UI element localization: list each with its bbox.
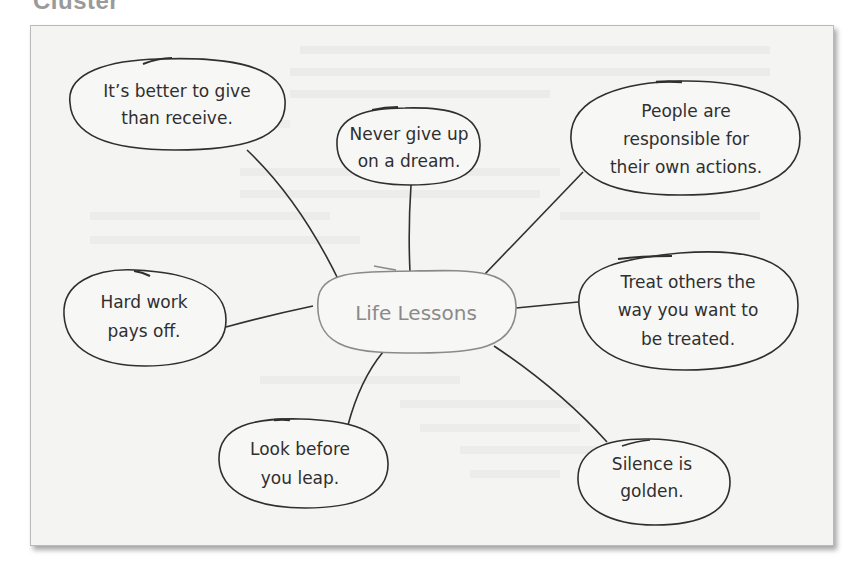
node-silence-line-1: Silence is [612,454,692,474]
node-treat-line-2: way you want to [618,300,759,320]
node-responsible-line-3: their own actions. [610,157,762,177]
connector-responsible [484,172,583,275]
node-hardwork-line-2: pays off. [107,321,180,341]
node-give[interactable]: It’s better to give than receive. [70,58,285,150]
node-give-line-1: It’s better to give [103,81,250,101]
node-responsible[interactable]: People are responsible for their own act… [571,81,800,195]
center-node[interactable]: Life Lessons [318,266,516,353]
node-hardwork-line-1: Hard work [100,292,187,312]
connector-dream [409,185,411,272]
center-label: Life Lessons [355,301,477,325]
node-dream-line-1: Never give up [349,124,468,144]
node-look-line-2: you leap. [261,468,339,488]
node-treat-line-1: Treat others the [620,272,756,292]
node-silence-line-2: golden. [620,481,683,501]
connector-look [348,352,383,425]
node-look-line-1: Look before [250,439,350,459]
connector-hardwork [226,306,313,327]
node-responsible-line-2: responsible for [623,129,749,149]
cluster-diagram: Life Lessons It’s better to give than re… [0,0,849,567]
connector-treat [516,302,578,308]
node-treat[interactable]: Treat others the way you want to be trea… [579,252,798,370]
node-look[interactable]: Look before you leap. [219,419,388,508]
node-silence[interactable]: Silence is golden. [578,439,730,525]
node-give-line-2: than receive. [121,108,233,128]
node-treat-line-3: be treated. [641,329,735,349]
node-dream-line-2: on a dream. [358,151,461,171]
node-responsible-line-1: People are [641,101,730,121]
node-hardwork[interactable]: Hard work pays off. [64,270,226,366]
node-dream[interactable]: Never give up on a dream. [337,107,480,185]
